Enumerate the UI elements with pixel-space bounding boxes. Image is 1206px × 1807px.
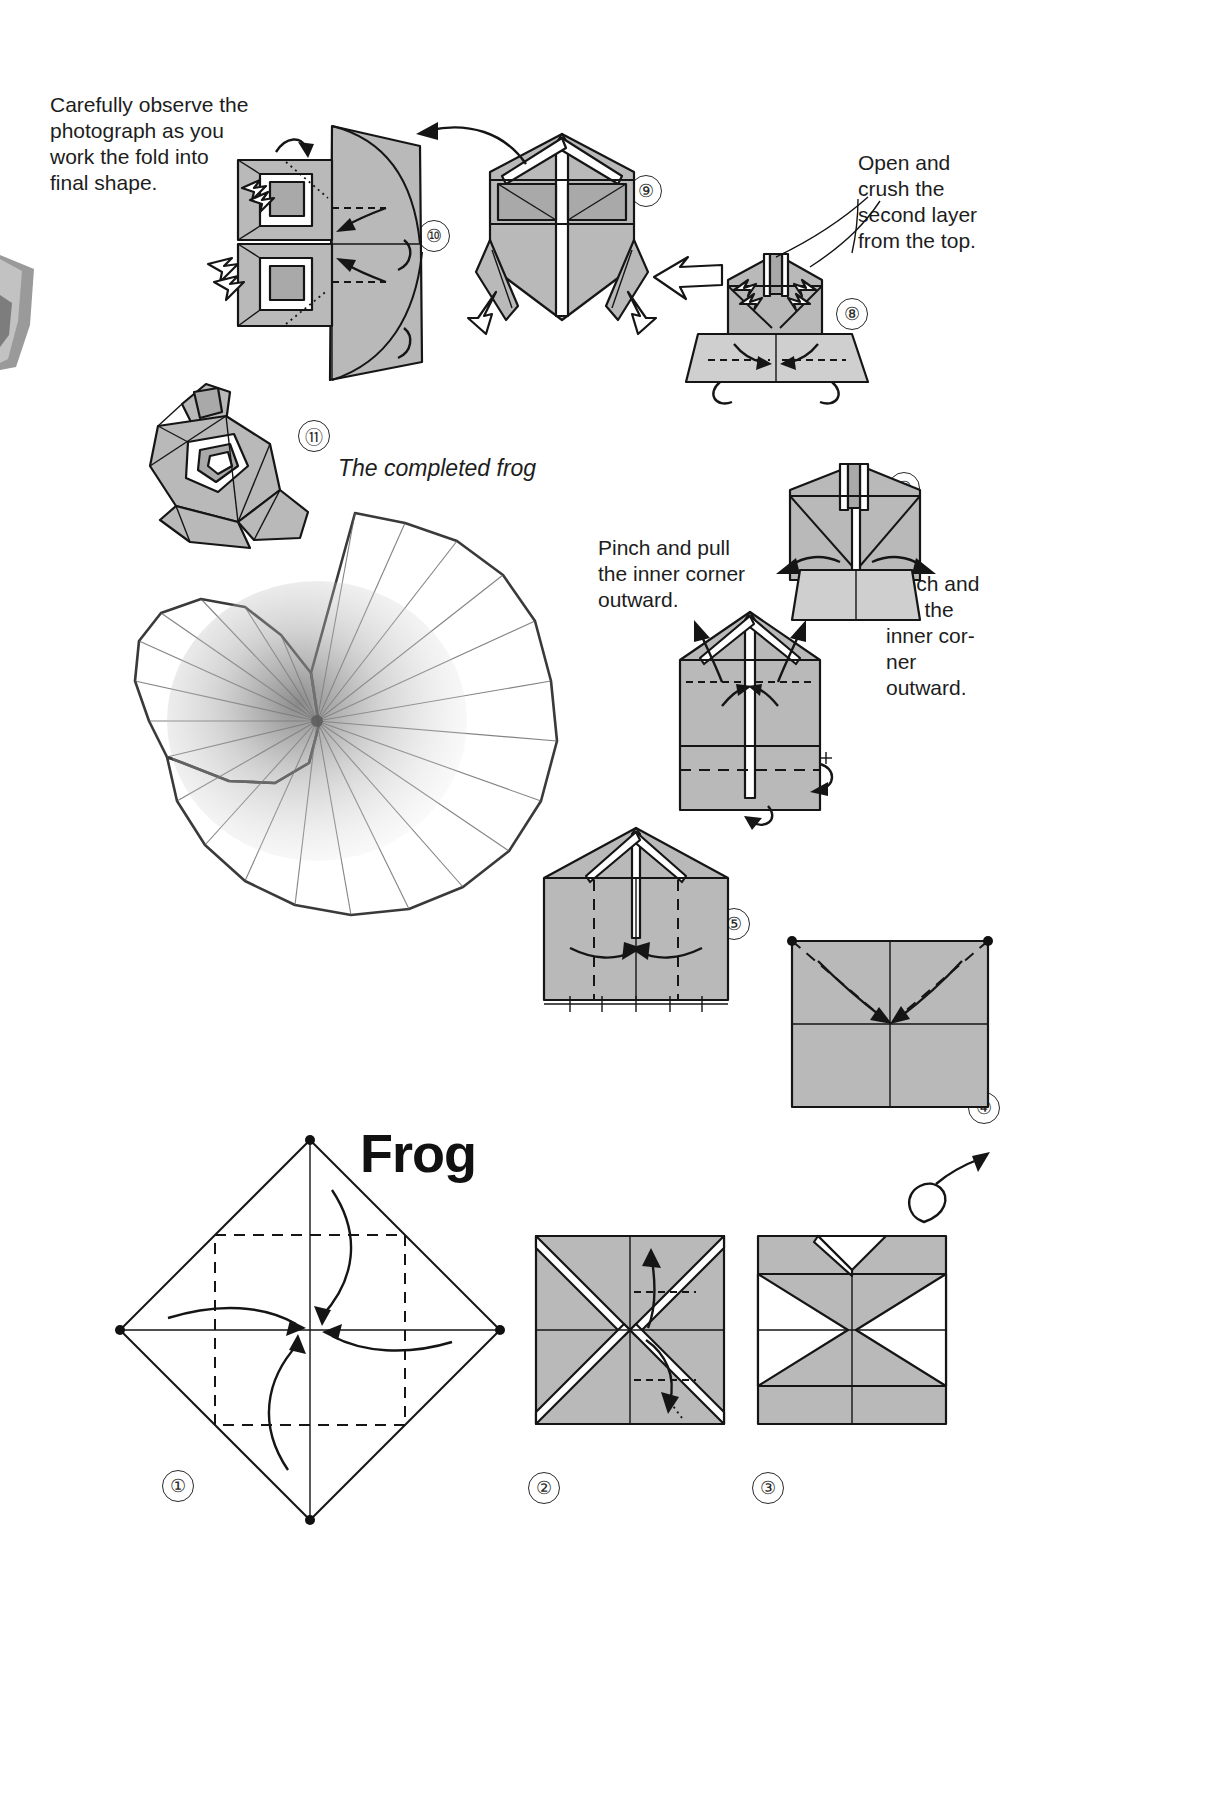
lily-pad-illustration (105, 495, 580, 955)
open-crush-leader-lines (740, 195, 940, 285)
step-badge-3: ③ (752, 1472, 784, 1504)
step-7-diagram (762, 462, 982, 642)
step-10-diagram (190, 112, 440, 392)
step-4-diagram (786, 935, 996, 1115)
step-2-diagram (530, 1230, 730, 1440)
step-8-to-9-arrow (650, 255, 730, 325)
origami-instruction-page: Carefully observe the photograph as you … (0, 0, 1206, 1807)
step-1-diagram (110, 1130, 510, 1530)
photo-edge-sliver (0, 255, 42, 370)
turn-over-arrow (890, 1150, 1000, 1240)
step-badge-2: ② (528, 1472, 560, 1504)
completed-frog-caption: The completed frog (338, 455, 618, 481)
step-3-diagram (752, 1230, 952, 1440)
